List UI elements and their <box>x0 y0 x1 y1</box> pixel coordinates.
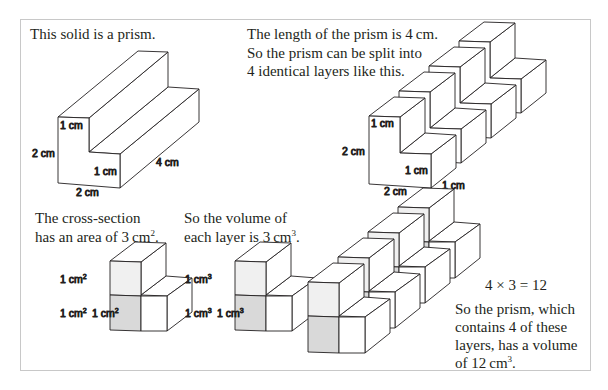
volume-label-bottom-left: 1 cm3 <box>185 307 212 319</box>
volume-layer <box>235 242 317 331</box>
prism-label-length: 4 cm <box>156 156 179 168</box>
prism-label-height: 2 cm <box>32 147 55 159</box>
volume-label-top: 1 cm3 <box>185 273 212 285</box>
volume-label-bottom-right: 1 cm3 <box>217 307 244 319</box>
layered-prism <box>369 22 546 188</box>
area-layer <box>110 242 192 331</box>
layer-label-top-step: 1 cm <box>371 117 394 129</box>
area-label-bottom-right: 1 cm2 <box>92 307 119 319</box>
area-label-bottom-left: 1 cm2 <box>60 307 87 319</box>
layer-label-lower-step: 1 cm <box>405 164 428 176</box>
area-square-top <box>110 261 141 296</box>
diagram-svg: 1 cm 2 cm 1 cm 4 cm 2 cm <box>0 0 608 390</box>
prism-label-lower-step: 1 cm <box>94 165 117 177</box>
layer-label-width: 2 cm <box>384 185 407 197</box>
area-label-top: 1 cm2 <box>60 273 87 285</box>
layer-label-height: 2 cm <box>342 145 365 157</box>
prism-label-top-step: 1 cm <box>60 119 83 131</box>
cube-prism <box>308 188 480 353</box>
prism-label-width: 2 cm <box>76 186 99 198</box>
